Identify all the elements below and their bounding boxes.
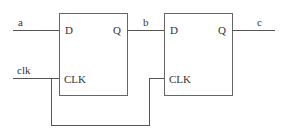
- signal-clk-label: clk: [17, 64, 31, 76]
- flipflop-1-d-pin: D: [65, 24, 73, 36]
- flipflop-1-q-pin: Q: [113, 24, 121, 36]
- signal-c-label: c: [257, 16, 262, 28]
- flipflop-2-q-pin: Q: [218, 24, 226, 36]
- flipflop-2-d-pin: D: [170, 24, 178, 36]
- flipflop-2-clk-pin: CLK: [169, 73, 191, 85]
- signal-b-label: b: [143, 16, 149, 28]
- signal-a-label: a: [18, 16, 23, 28]
- flipflop-1: D Q CLK: [60, 14, 128, 96]
- flipflop-1-clk-pin: CLK: [64, 73, 86, 85]
- flipflop-2: D Q CLK: [165, 14, 233, 96]
- circuit-diagram: D Q CLK D Q CLK a clk b c: [0, 0, 289, 135]
